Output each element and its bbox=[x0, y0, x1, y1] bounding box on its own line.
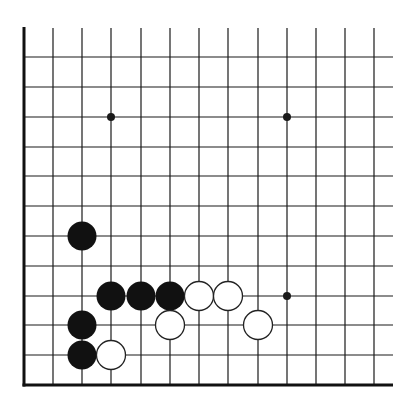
black-stone bbox=[68, 311, 97, 340]
white-stone bbox=[244, 311, 273, 340]
star-point-icon bbox=[107, 113, 115, 121]
black-stone bbox=[68, 341, 97, 370]
star-point-icon bbox=[283, 113, 291, 121]
black-stone bbox=[68, 222, 97, 251]
black-stone bbox=[127, 282, 156, 311]
white-stone bbox=[156, 311, 185, 340]
white-stone bbox=[185, 282, 214, 311]
black-stone bbox=[97, 282, 126, 311]
star-point-icon bbox=[283, 292, 291, 300]
go-board[interactable] bbox=[0, 0, 416, 413]
white-stone bbox=[214, 282, 243, 311]
black-stone bbox=[156, 282, 185, 311]
white-stone bbox=[97, 341, 126, 370]
